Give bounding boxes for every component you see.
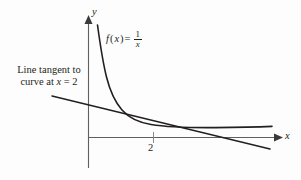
function-equals-sign: = <box>125 33 131 45</box>
annotation-line-2-prefix: curve at <box>20 76 56 87</box>
fraction-one-over-x: 1 x <box>134 30 143 49</box>
fraction-numerator: 1 <box>134 30 143 39</box>
function-argument: x <box>114 33 119 45</box>
x-axis-label: x <box>285 130 290 142</box>
function-name: f <box>106 33 109 45</box>
annotation-line-2-suffix: = 2 <box>61 76 77 87</box>
y-axis-label: y <box>92 6 97 18</box>
tangent-annotation-label: Line tangent to curve at x = 2 <box>8 64 90 89</box>
fraction-denominator: x <box>134 40 142 49</box>
tangent-line <box>52 96 270 149</box>
function-equation-label: f(x)= 1 x <box>106 30 142 49</box>
annotation-line-1: Line tangent to <box>17 64 81 75</box>
function-open-paren: ( <box>110 33 114 45</box>
x-tick-label-2: 2 <box>148 142 153 154</box>
tangent-line-figure: Line tangent to curve at x = 2 f(x)= 1 x… <box>0 0 301 180</box>
x-axis-arrowhead <box>274 134 283 142</box>
function-close-paren: ) <box>120 33 124 45</box>
